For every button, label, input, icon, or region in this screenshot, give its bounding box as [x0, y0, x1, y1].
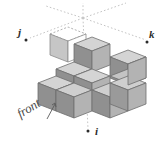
- axis-label-k: k: [149, 29, 155, 40]
- figure-canvas: [0, 0, 164, 146]
- axis-line-j-extension: [83, 3, 126, 18]
- cube-solid-bottom-center-front: [56, 83, 92, 118]
- axis-dot-i: [87, 130, 90, 133]
- axis-label-j: j: [18, 27, 21, 38]
- isometric-cube-figure: j k i front: [0, 0, 164, 146]
- axis-label-i: i: [95, 126, 98, 137]
- axis-line-k-extension: [46, 6, 83, 18]
- axis-line-k: [83, 18, 146, 40]
- axis-dot-j: [25, 39, 28, 42]
- axis-dot-k: [146, 41, 149, 44]
